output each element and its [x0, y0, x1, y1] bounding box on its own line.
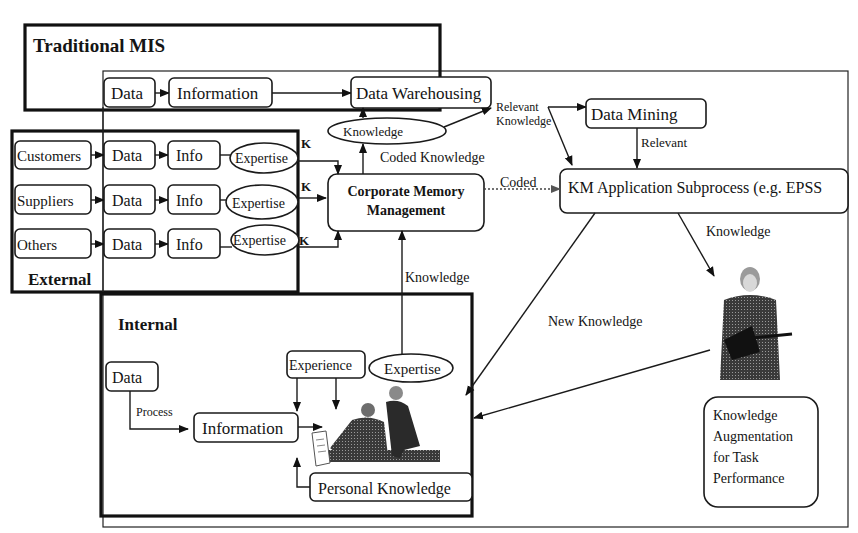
knowledge-augmentation-line-1: Knowledge — [713, 408, 778, 423]
corporate-memory-label-2: Management — [367, 203, 446, 218]
experience-label: Experience — [289, 358, 352, 373]
coded-knowledge-label: Coded Knowledge — [380, 150, 485, 165]
personal-knowledge-label: Personal Knowledge — [318, 480, 451, 498]
knowledge-augmentation-line-3: for Task — [713, 450, 759, 465]
suppliers-info-label: Info — [176, 192, 203, 209]
suppliers-label: Suppliers — [17, 193, 74, 209]
process-label: Process — [136, 405, 173, 419]
new-knowledge-label: New Knowledge — [548, 314, 642, 329]
relevant-knowledge-label-2: Knowledge — [496, 114, 551, 128]
customers-expertise-label: Expertise — [235, 151, 288, 166]
customers-label: Customers — [17, 148, 81, 164]
internal-expertise-label: Expertise — [384, 361, 441, 377]
knowledge-up-label: Knowledge — [405, 270, 470, 285]
k-label-2: K — [301, 179, 312, 194]
internal-information-label: Information — [202, 419, 284, 438]
others-expertise-label: Expertise — [233, 233, 286, 248]
knowledge-right-label: Knowledge — [706, 224, 771, 239]
knowledge-ellipse-label: Knowledge — [343, 124, 403, 139]
data-mining-label: Data Mining — [591, 105, 678, 124]
km-diagram: Traditional MIS Data Information Data Wa… — [0, 0, 858, 533]
internal-data-label: Data — [112, 369, 142, 386]
k-label-3: K — [299, 233, 310, 248]
km-application-label: KM Application Subprocess (e.g. EPSS — [568, 179, 822, 197]
knowledge-augmentation-line-2: Augmentation — [713, 429, 793, 444]
knowledge-augmentation-line-4: Performance — [713, 471, 785, 486]
k-label-1: K — [301, 136, 312, 151]
office-workers-illustration — [312, 386, 440, 466]
traditional-mis-label: Traditional MIS — [33, 35, 165, 56]
others-data-label: Data — [112, 236, 142, 253]
corporate-memory-label-1: Corporate Memory — [347, 184, 464, 199]
mis-information-label: Information — [177, 84, 259, 103]
suppliers-data-label: Data — [112, 192, 142, 209]
others-label: Others — [17, 237, 57, 253]
external-label: External — [28, 270, 92, 289]
knowledge-worker-illustration — [720, 267, 792, 380]
internal-label: Internal — [118, 315, 178, 334]
suppliers-expertise-label: Expertise — [232, 196, 285, 211]
coded-label: Coded — [500, 175, 537, 190]
data-warehousing-label: Data Warehousing — [356, 84, 482, 103]
relevant-label: Relevant — [641, 135, 688, 150]
customers-info-label: Info — [176, 147, 203, 164]
others-info-label: Info — [176, 236, 203, 253]
customers-data-label: Data — [112, 147, 142, 164]
mis-data-label: Data — [111, 84, 144, 103]
relevant-knowledge-label-1: Relevant — [496, 100, 539, 114]
